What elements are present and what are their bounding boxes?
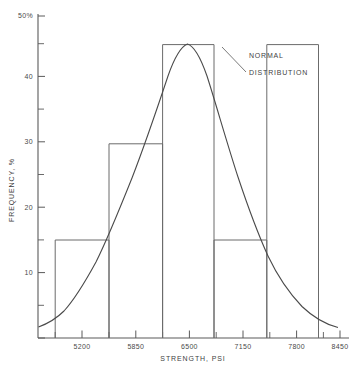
y-tick-label-10: 10	[25, 269, 33, 276]
y-tick-label-30: 30	[25, 138, 33, 145]
annotation-leader-line	[222, 47, 246, 72]
y-tick-label-40: 40	[25, 73, 33, 80]
histogram-bars	[55, 45, 318, 338]
x-tick-label-7150: 7150	[235, 343, 252, 350]
y-axis-ticks	[38, 16, 45, 338]
x-axis-ticks	[55, 331, 340, 339]
y-tick-label-20: 20	[25, 204, 33, 211]
x-tick-label-8450: 8450	[332, 343, 349, 350]
x-tick-label-5200: 5200	[74, 343, 91, 350]
normal-distribution-curve	[39, 44, 339, 328]
x-tick-label-7800: 7800	[288, 343, 305, 350]
x-axis-title: STRENGTH, PSI	[160, 355, 225, 362]
histogram-bar-2	[109, 144, 163, 338]
histogram-bar-1	[55, 240, 109, 338]
histogram-bar-5	[267, 45, 319, 338]
x-tick-label-6500: 6500	[181, 343, 198, 350]
histogram-normal-distribution-chart: 10 20 30 40 50% FREQUENCY, % 5200 5850 6…	[0, 0, 360, 370]
normal-label-line2: DISTRIBUTION	[249, 69, 308, 76]
normal-label-line1: NORMAL	[249, 52, 284, 59]
y-axis-title: FREQUENCY, %	[8, 158, 16, 222]
chart-figure: 10 20 30 40 50% FREQUENCY, % 5200 5850 6…	[0, 0, 360, 370]
y-tick-label-50: 50%	[18, 12, 33, 19]
histogram-bar-3	[163, 45, 214, 338]
histogram-bar-4	[214, 240, 267, 338]
x-tick-label-5850: 5850	[127, 343, 144, 350]
